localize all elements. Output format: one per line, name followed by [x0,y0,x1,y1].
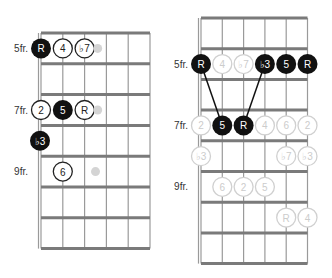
note-label: R [37,43,44,54]
note-label: 5 [283,59,289,70]
note-label: ♭3 [260,59,271,70]
note-marker: 5 [255,177,274,196]
fret-number-label: 9fr. [174,181,188,192]
note-label: ♭3 [302,151,313,162]
fretboard-left: 5fr.7fr.9fr.R4♭725R♭36 [14,33,150,249]
note-marker: 5 [276,54,296,74]
note-label: 5 [60,105,66,116]
note-marker: 4 [53,39,72,58]
note-label: 4 [305,213,311,224]
note-marker: R [277,208,296,227]
note-marker: 6 [53,162,72,181]
note-marker: 2 [234,177,253,196]
note-marker: 2 [192,116,211,135]
note-label: ♭7 [79,43,90,54]
note-label: 4 [60,43,66,54]
note-marker: 4 [213,55,232,74]
passing-note-dot [93,44,102,53]
note-label: ♭3 [35,136,46,147]
note-label: 5 [262,182,268,193]
note-label: ♭3 [196,151,207,162]
note-marker: R [298,54,318,74]
fretboard-diagrams: 5fr.7fr.9fr.R4♭725R♭365fr.7fr.9fr.R4♭7♭3… [0,0,332,278]
passing-note-dot [91,167,100,176]
note-label: R [197,59,204,70]
note-marker: 4 [298,208,317,227]
note-label: 5 [220,120,226,131]
note-marker: 5 [53,100,73,120]
fret-number-label: 7fr. [14,105,28,116]
note-marker: R [75,101,94,120]
note-label: 6 [60,167,66,178]
note-label: 6 [220,182,226,193]
note-marker: 6 [213,177,232,196]
fret-number-label: 9fr. [14,166,28,177]
note-label: ♭7 [238,59,249,70]
note-label: 2 [198,120,204,131]
note-marker: ♭3 [255,54,275,74]
note-label: 6 [283,120,289,131]
note-marker: 2 [298,116,317,135]
note-marker: ♭7 [75,39,94,58]
fretboard-right: 5fr.7fr.9fr.R4♭7♭35R25R462♭3♭7♭3625R4 [174,18,317,264]
note-marker: ♭3 [192,147,211,166]
note-label: R [81,105,88,116]
fret-number-label: 5fr. [14,43,28,54]
note-label: R [283,213,290,224]
note-label: 4 [220,59,226,70]
note-marker: ♭3 [298,147,317,166]
note-label: 2 [38,105,44,116]
note-marker: 2 [32,101,51,120]
note-label: R [304,59,311,70]
passing-note-dot [93,106,102,115]
note-marker: 6 [277,116,296,135]
note-marker: R [234,115,254,135]
note-marker: R [191,54,211,74]
note-label: ♭7 [281,151,292,162]
note-marker: ♭7 [234,55,253,74]
note-label: 2 [241,182,247,193]
fret-number-label: 7fr. [174,120,188,131]
note-marker: ♭7 [277,147,296,166]
note-marker: R [31,38,51,58]
note-marker: ♭3 [30,131,50,151]
note-label: 2 [305,120,311,131]
note-marker: 4 [255,116,274,135]
note-marker: 5 [212,115,232,135]
fret-number-label: 5fr. [174,59,188,70]
note-label: 4 [262,120,268,131]
note-label: R [240,120,247,131]
